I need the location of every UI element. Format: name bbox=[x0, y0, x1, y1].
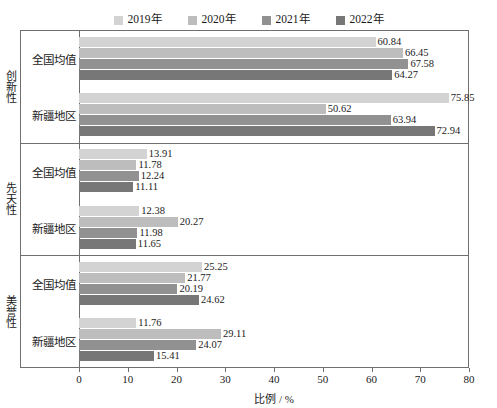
bar[interactable] bbox=[79, 295, 199, 305]
legend-swatch-icon bbox=[188, 16, 197, 25]
x-axis-tick-label: 0 bbox=[76, 373, 82, 385]
bar[interactable] bbox=[79, 217, 178, 227]
x-axis-tick-label: 10 bbox=[122, 373, 133, 385]
legend-label: 2019年 bbox=[128, 14, 162, 26]
subgroup-label: 全国均值 bbox=[22, 164, 76, 180]
bar-stack: 11.7629.1124.0715.41 bbox=[79, 312, 469, 368]
legend-item[interactable]: 2019年 bbox=[114, 14, 162, 26]
bar-row: 20.27 bbox=[79, 217, 469, 227]
bar-row: 60.84 bbox=[79, 37, 469, 47]
x-axis-tick-label: 20 bbox=[171, 373, 182, 385]
bar-value-label: 24.07 bbox=[196, 340, 222, 351]
bar[interactable] bbox=[79, 228, 137, 238]
bar-row: 64.27 bbox=[79, 70, 469, 80]
bar-value-label: 11.98 bbox=[137, 227, 162, 238]
bar-row: 11.78 bbox=[79, 160, 469, 170]
bar[interactable] bbox=[79, 171, 139, 181]
bar[interactable] bbox=[79, 48, 403, 58]
bar-value-label: 20.27 bbox=[178, 216, 204, 227]
bar-row: 12.24 bbox=[79, 171, 469, 181]
x-axis: 比例 / % 01020304050607080 bbox=[79, 368, 469, 408]
bar[interactable] bbox=[79, 351, 154, 361]
subgroup: 新疆地区75.8550.6263.9472.94 bbox=[0, 86, 497, 142]
bar-stack: 12.3820.2711.9811.65 bbox=[79, 199, 469, 255]
legend-item[interactable]: 2021年 bbox=[262, 14, 310, 26]
x-axis-tick-label: 30 bbox=[220, 373, 231, 385]
bar-row: 11.76 bbox=[79, 318, 469, 328]
bar-row: 11.11 bbox=[79, 182, 469, 192]
bar[interactable] bbox=[79, 273, 185, 283]
bar[interactable] bbox=[79, 59, 408, 69]
x-axis-title: 比例 / % bbox=[79, 390, 469, 406]
x-axis-tick-label: 70 bbox=[415, 373, 426, 385]
bar-row: 25.25 bbox=[79, 262, 469, 272]
bar-value-label: 60.84 bbox=[376, 36, 402, 47]
legend-label: 2022年 bbox=[350, 14, 384, 26]
bar[interactable] bbox=[79, 239, 136, 249]
bar[interactable] bbox=[79, 206, 139, 216]
bar-value-label: 66.45 bbox=[403, 47, 429, 58]
subgroup: 全国均值60.8466.4567.5864.27 bbox=[0, 30, 497, 86]
bar-stack: 60.8466.4567.5864.27 bbox=[79, 30, 469, 86]
bar[interactable] bbox=[79, 160, 136, 170]
subgroup-label: 新疆地区 bbox=[22, 333, 76, 349]
bar-value-label: 75.85 bbox=[449, 93, 475, 104]
bar[interactable] bbox=[79, 104, 326, 114]
legend-item[interactable]: 2022年 bbox=[336, 14, 384, 26]
bar-value-label: 12.38 bbox=[139, 205, 165, 216]
x-axis-tick bbox=[323, 368, 324, 372]
legend-item[interactable]: 2020年 bbox=[188, 14, 236, 26]
x-axis-tick-label: 60 bbox=[366, 373, 377, 385]
subgroup-label: 新疆地区 bbox=[22, 107, 76, 123]
bar[interactable] bbox=[79, 70, 392, 80]
bar-value-label: 50.62 bbox=[326, 104, 352, 115]
bar-value-label: 29.11 bbox=[221, 329, 246, 340]
bar[interactable] bbox=[79, 284, 177, 294]
chart-figure: 2019年2020年2021年2022年 创新性全国均值60.8466.4567… bbox=[0, 0, 497, 408]
bar-row: 29.11 bbox=[79, 329, 469, 339]
bar[interactable] bbox=[79, 182, 133, 192]
bar[interactable] bbox=[79, 329, 221, 339]
bar[interactable] bbox=[79, 93, 449, 103]
bar-value-label: 24.62 bbox=[199, 295, 225, 306]
bar-value-label: 67.58 bbox=[408, 58, 434, 69]
subgroup: 全国均值25.2521.7720.1924.62 bbox=[0, 255, 497, 311]
legend-label: 2020年 bbox=[202, 14, 236, 26]
bar-row: 11.98 bbox=[79, 228, 469, 238]
subgroup: 全国均值13.9111.7812.2411.11 bbox=[0, 143, 497, 199]
bar-value-label: 20.19 bbox=[177, 284, 203, 295]
x-axis-tick-label: 80 bbox=[464, 373, 475, 385]
bar-stack: 75.8550.6263.9472.94 bbox=[79, 86, 469, 142]
x-axis-tick bbox=[225, 368, 226, 372]
bar-value-label: 11.78 bbox=[136, 160, 161, 171]
subgroup-label: 全国均值 bbox=[22, 51, 76, 67]
bar[interactable] bbox=[79, 149, 147, 159]
bar[interactable] bbox=[79, 126, 435, 136]
x-axis-tick bbox=[469, 368, 470, 372]
bar-row: 21.77 bbox=[79, 273, 469, 283]
bar-value-label: 25.25 bbox=[202, 262, 228, 273]
bar-value-label: 15.41 bbox=[154, 351, 180, 362]
bar-groups: 创新性全国均值60.8466.4567.5864.27新疆地区75.8550.6… bbox=[0, 30, 497, 368]
bar-row: 75.85 bbox=[79, 93, 469, 103]
bar[interactable] bbox=[79, 318, 136, 328]
bar-row: 11.65 bbox=[79, 239, 469, 249]
legend-swatch-icon bbox=[262, 16, 271, 25]
bar-stack: 13.9111.7812.2411.11 bbox=[79, 143, 469, 199]
bar[interactable] bbox=[79, 340, 196, 350]
x-axis-tick bbox=[372, 368, 373, 372]
bar-row: 50.62 bbox=[79, 104, 469, 114]
bar-row: 12.38 bbox=[79, 206, 469, 216]
x-axis-tick bbox=[274, 368, 275, 372]
x-axis-tick-label: 50 bbox=[317, 373, 328, 385]
bar-value-label: 11.76 bbox=[136, 318, 161, 329]
legend-swatch-icon bbox=[336, 16, 345, 25]
bar[interactable] bbox=[79, 37, 376, 47]
bar[interactable] bbox=[79, 262, 202, 272]
subgroup-label: 新疆地区 bbox=[22, 220, 76, 236]
subgroup: 新疆地区11.7629.1124.0715.41 bbox=[0, 312, 497, 368]
bar[interactable] bbox=[79, 115, 391, 125]
x-axis-tick bbox=[420, 368, 421, 372]
bar-value-label: 72.94 bbox=[435, 126, 461, 137]
bar-row: 20.19 bbox=[79, 284, 469, 294]
